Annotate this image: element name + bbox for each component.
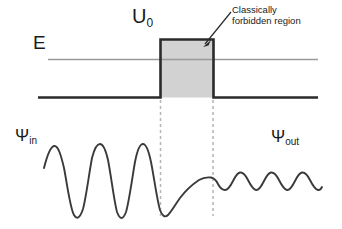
barrier-region: [161, 40, 214, 98]
transmitted-wave-label: Ψout: [271, 128, 299, 147]
forbidden-region-annotation-line2: forbidden region: [232, 15, 301, 26]
forbidden-region-annotation-line1: Classically: [232, 4, 277, 15]
annotation-leader-line: [205, 12, 231, 44]
wavefunction-curve: [44, 144, 322, 218]
incident-wave-symbol: Ψ: [15, 126, 29, 145]
forbidden-region-annotation: Classicallyforbidden region: [232, 4, 318, 26]
transmitted-wave-symbol: Ψ: [271, 127, 285, 146]
tunneling-diagram: U0 E Classicallyforbidden region Ψin Ψou…: [0, 0, 342, 229]
barrier-height-subscript: 0: [146, 16, 153, 30]
incident-wave-label: Ψin: [15, 127, 37, 146]
barrier-height-label: U0: [132, 6, 153, 29]
diagram-canvas: [0, 0, 342, 229]
energy-level-label: E: [33, 33, 46, 52]
transmitted-wave-subscript: out: [285, 136, 299, 147]
barrier-height-symbol: U: [132, 5, 146, 27]
incident-wave-subscript: in: [29, 135, 37, 146]
